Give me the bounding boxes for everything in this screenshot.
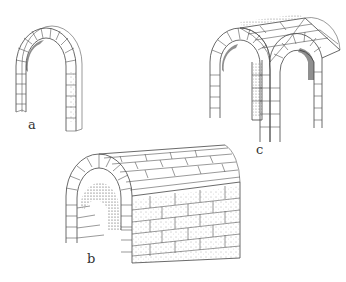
label-c: c [256, 143, 263, 156]
barrel-vault-b [66, 145, 240, 263]
label-b: b [87, 252, 95, 265]
arch-a [16, 26, 82, 131]
arch-diagram [0, 0, 346, 282]
label-a: a [28, 118, 36, 131]
groin-vault-c [210, 14, 340, 142]
